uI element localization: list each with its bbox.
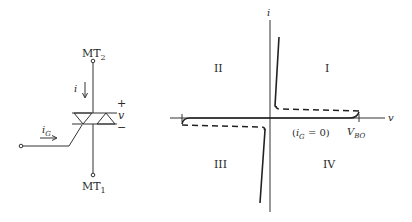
quadrant-i-label: I <box>325 62 329 75</box>
triac-diode-up-icon <box>97 113 115 124</box>
quadrant-iii-label: III <box>214 158 227 171</box>
reverse-snapback-dashed <box>182 125 265 130</box>
quadrant-i-onstate-curve <box>275 37 279 107</box>
triac-circuit: MT2 i + v − MT1 iG <box>19 47 126 195</box>
i-axis-label: i <box>267 7 270 18</box>
iv-characteristic: i v II I III IV (iG = 0) VBO <box>170 7 394 212</box>
mt1-terminal <box>91 173 95 177</box>
vbo-label: VBO <box>347 126 366 140</box>
current-label: i <box>74 83 77 94</box>
triac-figure: MT2 i + v − MT1 iG i v <box>0 0 412 222</box>
figure-canvas: MT2 i + v − MT1 iG i v <box>0 0 412 222</box>
quadrant-iv-label: IV <box>323 158 336 171</box>
v-axis-label: v <box>388 112 394 123</box>
gate-current-label: iG <box>42 124 51 138</box>
forward-blocking-curve <box>270 112 359 118</box>
quadrant-ii-label: II <box>214 62 223 75</box>
gate-zero-annotation: (iG = 0) <box>292 127 330 141</box>
voltage-minus: − <box>117 121 126 134</box>
mt1-label: MT1 <box>82 180 106 195</box>
forward-snapback-dashed <box>276 106 359 111</box>
triac-diode-down-icon <box>74 113 92 124</box>
gate-terminal <box>19 144 23 148</box>
quadrant-iii-onstate-curve <box>260 129 265 203</box>
reverse-blocking-curve <box>182 118 270 124</box>
